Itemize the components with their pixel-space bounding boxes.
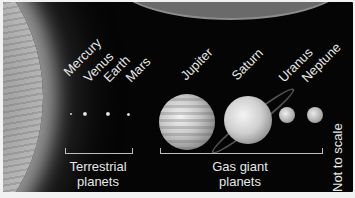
top-border bbox=[0, 0, 355, 2]
terrestrial-label-line2: planets bbox=[58, 174, 138, 189]
not-to-scale-note: Not to scale bbox=[330, 123, 345, 192]
sun-surface-texture bbox=[3, 2, 43, 192]
gas-giant-bracket bbox=[160, 148, 323, 154]
terrestrial-bracket bbox=[65, 148, 133, 154]
solar-system-diagram: Mercury Venus Earth Mars Jupiter Saturn … bbox=[3, 2, 353, 192]
jupiter-icon bbox=[159, 94, 215, 150]
earth-icon bbox=[106, 112, 110, 116]
terrestrial-label-line1: Terrestrial bbox=[58, 159, 138, 174]
gas-giant-group-label: Gas giant planets bbox=[200, 159, 280, 189]
planet-label-jupiter: Jupiter bbox=[177, 45, 215, 83]
terrestrial-group-label: Terrestrial planets bbox=[58, 159, 138, 189]
callout-bubble bbox=[113, 2, 348, 20]
venus-icon bbox=[83, 112, 87, 116]
gas-giant-label-line1: Gas giant bbox=[200, 159, 280, 174]
mercury-icon bbox=[70, 113, 72, 115]
mars-icon bbox=[127, 113, 130, 116]
saturn-icon bbox=[224, 96, 272, 144]
neptune-icon bbox=[307, 107, 323, 123]
uranus-icon bbox=[279, 107, 295, 123]
gas-giant-label-line2: planets bbox=[200, 174, 280, 189]
sun-image bbox=[3, 2, 43, 192]
planet-label-saturn: Saturn bbox=[228, 45, 266, 83]
